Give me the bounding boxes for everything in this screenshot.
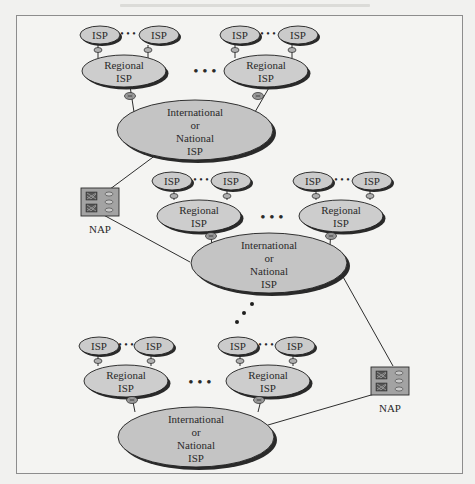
svg-text:ISP: ISP [305, 175, 321, 187]
svg-text:ISP: ISP [290, 29, 306, 41]
svg-text:• • •: • • • [260, 209, 283, 225]
svg-text:ISP: ISP [146, 340, 162, 352]
svg-text:International: International [167, 106, 223, 118]
local-isp: ISP [134, 337, 176, 357]
svg-text:Regional: Regional [106, 369, 146, 381]
local-isp: ISP [275, 337, 317, 357]
local-isp: ISP [293, 172, 335, 192]
svg-text:Regional: Regional [248, 369, 288, 381]
svg-text:ISP: ISP [230, 340, 246, 352]
svg-text:ISP: ISP [364, 175, 380, 187]
svg-text:• • •: • • • [118, 339, 134, 350]
svg-text:or: or [190, 119, 200, 131]
svg-text:ISP: ISP [258, 72, 274, 84]
local-isp: ISP [79, 337, 121, 357]
svg-text:ISP: ISP [261, 278, 277, 290]
isp-hierarchy-diagram: ISP • • • ISP ISP • • • ISP Regional ISP… [0, 0, 475, 484]
svg-text:ISP: ISP [287, 340, 303, 352]
svg-text:• • •: • • • [193, 174, 209, 185]
local-isp: ISP [278, 26, 320, 46]
svg-text:ISP: ISP [116, 72, 132, 84]
svg-text:ISP: ISP [188, 452, 204, 464]
regional-isp: Regional ISP [299, 200, 386, 235]
international-isp: International or National ISP [118, 407, 277, 470]
svg-text:Regional: Regional [179, 204, 219, 216]
isp-label: ISP [92, 29, 108, 41]
nap-label: NAP [89, 223, 111, 235]
local-isp: ISP [80, 26, 122, 46]
svg-text:ISP: ISP [187, 145, 203, 157]
svg-text:Regional: Regional [104, 59, 144, 71]
regional-isp: Regional ISP [224, 55, 311, 90]
svg-text:or: or [264, 252, 274, 264]
svg-text:• • •: • • • [334, 174, 350, 185]
cluster-middle: ISP • • • ISP ISP • • • ISP Regional ISP… [152, 172, 394, 296]
local-isp: ISP [220, 26, 262, 46]
svg-text:• • •: • • • [188, 374, 211, 390]
cluster-top: ISP • • • ISP ISP • • • ISP Regional ISP… [80, 26, 320, 163]
regional-isp: Regional ISP [226, 365, 313, 400]
svg-text:Regional: Regional [321, 204, 361, 216]
svg-text:International: International [241, 239, 297, 251]
local-isp: ISP [352, 172, 394, 192]
svg-text:ISP: ISP [164, 175, 180, 187]
local-isp: ISP [218, 337, 260, 357]
nap-label: NAP [379, 402, 401, 414]
regional-isp: Regional ISP [84, 365, 171, 400]
svg-text:ISP: ISP [232, 29, 248, 41]
svg-text:International: International [168, 413, 224, 425]
svg-text:National: National [250, 265, 288, 277]
local-isp: ISP [211, 172, 253, 192]
svg-text:ISP: ISP [191, 217, 207, 229]
regional-isp: Regional ISP [157, 200, 244, 235]
ellipsis: • • • [120, 28, 136, 39]
svg-text:• • •: • • • [258, 339, 274, 350]
international-isp: International or National ISP [191, 233, 350, 296]
nap-left: NAP [81, 188, 119, 235]
svg-text:Regional: Regional [246, 59, 286, 71]
svg-text:ISP: ISP [223, 175, 239, 187]
svg-text:ISP: ISP [91, 340, 107, 352]
vertical-ellipsis [235, 302, 254, 324]
cluster-bottom: ISP • • • ISP ISP • • • ISP Regional ISP… [79, 337, 317, 470]
svg-text:• • •: • • • [260, 28, 276, 39]
svg-text:ISP: ISP [118, 382, 134, 394]
regional-isp: Regional ISP [82, 55, 169, 90]
international-isp: International or National ISP [117, 100, 276, 163]
svg-text:ISP: ISP [333, 217, 349, 229]
svg-text:ISP: ISP [151, 29, 167, 41]
svg-text:National: National [177, 439, 215, 451]
svg-text:National: National [176, 132, 214, 144]
local-isp: ISP [152, 172, 194, 192]
svg-text:or: or [191, 426, 201, 438]
local-isp: ISP [139, 26, 181, 46]
ellipsis: • • • [193, 63, 216, 79]
svg-text:ISP: ISP [260, 382, 276, 394]
nap-right: NAP [371, 367, 409, 414]
